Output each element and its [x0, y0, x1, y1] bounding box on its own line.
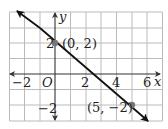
x-axis-label: x: [154, 74, 162, 89]
point-label-5-neg2: (5, −2): [87, 100, 133, 115]
x-tick-2: 2: [81, 75, 89, 90]
graph-line: [17, 11, 40, 28]
y-tick-neg2: −2: [38, 101, 57, 116]
x-tick-neg2: −2: [12, 75, 31, 90]
coordinate-plane: y x O −2 2 4 6 2 −2 (0, 2) (5, −2): [0, 0, 168, 129]
y-tick-2: 2: [46, 36, 54, 51]
x-tick-4: 4: [112, 75, 120, 90]
point-label-0-2: (0, 2): [62, 36, 97, 51]
x-tick-6: 6: [143, 75, 151, 90]
origin-label: O: [42, 75, 53, 90]
y-axis-label: y: [58, 9, 67, 24]
